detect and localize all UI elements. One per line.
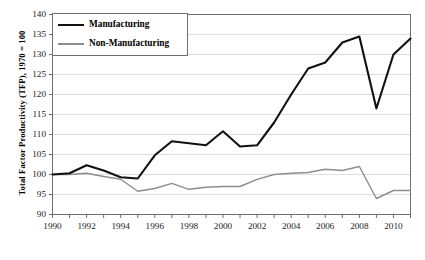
y-tick-label: 125: [16, 70, 46, 79]
y-tick-label: 140: [16, 10, 46, 19]
y-tick-label: 90: [16, 210, 46, 219]
legend-line-icon-non-manufacturing: [58, 43, 84, 44]
y-tick-label: 110: [16, 130, 46, 139]
legend-item-manufacturing: Manufacturing: [58, 19, 149, 31]
legend: Manufacturing Non-Manufacturing: [52, 13, 188, 56]
y-tick-label: 100: [16, 170, 46, 179]
y-tick-label: 130: [16, 50, 46, 59]
series-line-manufacturing: [53, 37, 411, 179]
x-tick-label: 2010: [373, 222, 413, 231]
y-tick-label: 135: [16, 30, 46, 39]
legend-line-icon-manufacturing: [58, 24, 84, 26]
legend-label-non-manufacturing: Non-Manufacturing: [89, 39, 169, 48]
y-tick-label: 120: [16, 90, 46, 99]
tfp-line-chart: Total Factor Productivity (TFP), 1970 = …: [0, 0, 425, 260]
y-tick-label: 95: [16, 190, 46, 199]
legend-item-non-manufacturing: Non-Manufacturing: [58, 38, 169, 50]
y-tick-label: 115: [16, 110, 46, 119]
legend-label-manufacturing: Manufacturing: [89, 20, 149, 29]
y-tick-label: 105: [16, 150, 46, 159]
